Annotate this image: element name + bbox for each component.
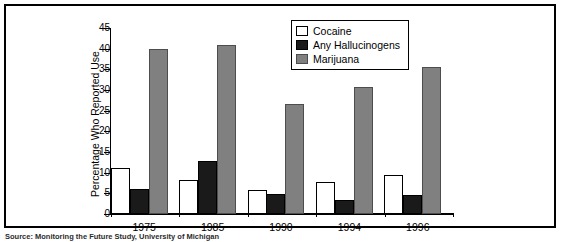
bar-any-hallucinogens-1975	[130, 189, 149, 214]
source-caption: Source: Monitoring the Future Study, Uni…	[5, 232, 219, 241]
x-axis-label-1994: 1994	[319, 222, 379, 233]
bar-marijuana-1996	[422, 67, 441, 214]
y-axis-tick-label-text: 5	[90, 188, 110, 198]
x-axis-label-1996: 1996	[388, 222, 448, 233]
y-axis-tick-label-text: 30	[90, 85, 110, 95]
y-axis-tick-label: 15	[78, 147, 110, 157]
bar-cocaine-1975	[111, 168, 130, 214]
bar-cocaine-1996	[384, 175, 403, 214]
y-axis-tick-label-text: 35	[90, 64, 110, 74]
y-axis-tick-label-text: 0	[90, 209, 110, 219]
x-axis-label-1990: 1990	[251, 222, 311, 233]
y-axis-tick-label: 35	[78, 64, 110, 74]
legend-label: Any Hallucinogens	[313, 40, 400, 51]
bar-marijuana-1985	[217, 45, 236, 214]
x-axis-tick	[453, 213, 454, 217]
y-axis-tick-label: 25	[78, 106, 110, 116]
legend-swatch-icon	[296, 26, 308, 36]
bar-group	[179, 28, 247, 214]
legend-swatch-icon	[296, 54, 308, 64]
legend-item-any-hallucinogens: Any Hallucinogens	[296, 38, 400, 52]
y-axis-tick-label: 0	[78, 209, 110, 219]
bar-marijuana-1975	[149, 49, 168, 214]
bar-cocaine-1985	[179, 180, 198, 214]
bar-group	[111, 28, 179, 214]
y-axis-tick-label-text: 15	[90, 147, 110, 157]
y-axis-tick-label-text: 10	[90, 168, 110, 178]
bar-any-hallucinogens-1985	[198, 161, 217, 214]
y-axis-tick-label: 30	[78, 85, 110, 95]
legend-item-marijuana: Marijuana	[296, 52, 400, 66]
legend-label: Marijuana	[313, 54, 359, 65]
y-axis-tick-label-text: 20	[90, 126, 110, 136]
y-axis-tick-label-text: 45	[90, 23, 110, 33]
y-axis-tick-label: 20	[78, 126, 110, 136]
y-axis-tick-label: 40	[78, 44, 110, 54]
bar-cocaine-1990	[248, 190, 267, 214]
bar-marijuana-1990	[285, 104, 304, 214]
legend: CocaineAny HallucinogensMarijuana	[291, 20, 409, 70]
bar-marijuana-1994	[354, 87, 373, 214]
y-axis-tick-label: 5	[78, 188, 110, 198]
y-axis-tick-label: 45	[78, 23, 110, 33]
legend-swatch-icon	[296, 40, 308, 50]
bar-any-hallucinogens-1996	[403, 195, 422, 214]
legend-item-cocaine: Cocaine	[296, 24, 400, 38]
chart-frame: Percentage Who Reported Use 051015202530…	[4, 4, 556, 228]
y-axis-label-host: Percentage Who Reported Use	[62, 46, 76, 196]
y-axis-tick-label-text: 40	[90, 44, 110, 54]
bar-cocaine-1994	[316, 182, 335, 214]
y-axis-tick-label: 10	[78, 168, 110, 178]
y-axis-tick-label-text: 25	[90, 106, 110, 116]
bar-any-hallucinogens-1994	[335, 200, 354, 214]
legend-label: Cocaine	[313, 26, 352, 37]
bar-any-hallucinogens-1990	[266, 194, 285, 214]
